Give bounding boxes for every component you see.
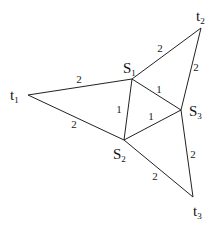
- node-label-t3: t3: [193, 203, 202, 221]
- edge-weight-label: 2: [76, 73, 82, 85]
- edge-weight-label: 2: [71, 118, 77, 130]
- edge-weight-label: 2: [152, 170, 158, 182]
- node-label-S3: S3: [189, 103, 202, 121]
- node-label-t2: t2: [196, 8, 205, 26]
- node-label-t1: t1: [10, 87, 19, 105]
- edge-weight-label: 1: [148, 110, 154, 122]
- edge-S1-S2: [124, 79, 132, 140]
- edge-weight-label: 1: [156, 83, 162, 95]
- edge-weight-label: 2: [190, 148, 196, 160]
- graph-svg: 222211122t1t2t3S1S2S3: [0, 0, 218, 228]
- node-label-S1: S1: [123, 60, 136, 78]
- edge-weight-label: 1: [116, 103, 122, 115]
- graph-diagram: 222211122t1t2t3S1S2S3: [0, 0, 218, 228]
- edge-weight-label: 2: [157, 42, 163, 54]
- node-label-S2: S2: [113, 146, 126, 164]
- edge-weight-label: 2: [193, 61, 199, 73]
- edge-S2-t3: [124, 140, 193, 197]
